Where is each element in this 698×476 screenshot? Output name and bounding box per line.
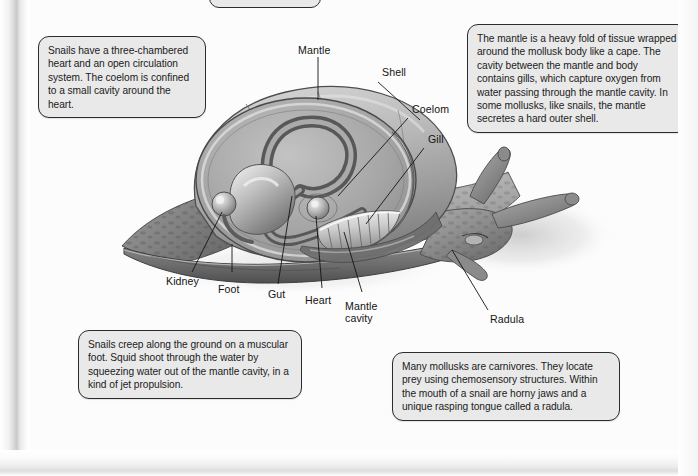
figure-page: Mantle Shell Coelom Gill Kidney Foot Gut… (0, 0, 698, 476)
label-mantle-cavity: Mantle cavity (345, 300, 377, 325)
callout-box-circulation: Snails have a three-chambered heart and … (38, 36, 206, 118)
label-gill: Gill (428, 133, 444, 145)
label-mantle: Mantle (298, 44, 330, 56)
callout-box-radula: Many mollusks are carnivores. They locat… (392, 352, 620, 421)
label-coelom: Coelom (412, 103, 449, 115)
label-gut: Gut (268, 288, 285, 300)
callout-box-foot: Snails creep along the ground on a muscu… (78, 330, 302, 399)
label-heart: Heart (305, 294, 331, 306)
heart-organ (307, 197, 329, 219)
label-foot: Foot (218, 283, 240, 295)
label-kidney: Kidney (166, 275, 199, 287)
page-edge-right-shadow (678, 0, 698, 476)
label-mantle-cavity-line1: Mantle (345, 300, 377, 312)
label-radula: Radula (490, 313, 524, 325)
page-edge-left-shadow (0, 0, 30, 476)
label-shell: Shell (382, 66, 406, 78)
callout-box-clipped-top (209, 0, 321, 8)
callout-box-mantle: The mantle is a heavy fold of tissue wra… (467, 24, 688, 133)
page-edge-bottom-shadow (0, 450, 698, 476)
label-mantle-cavity-line2: cavity (345, 312, 373, 324)
kidney-organ (212, 192, 236, 216)
